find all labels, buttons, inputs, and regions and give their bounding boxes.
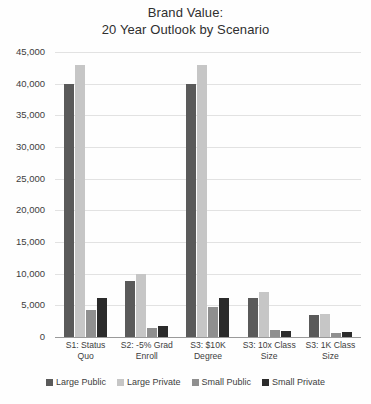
x-axis-label-line: S2: -5% Grad xyxy=(116,340,177,351)
y-axis-tick-label: 5,000 xyxy=(0,300,45,310)
y-axis-tick-label: 25,000 xyxy=(0,174,45,184)
bar xyxy=(259,292,269,337)
bar xyxy=(97,298,107,337)
y-axis-tick-label: 10,000 xyxy=(0,269,45,279)
bar xyxy=(86,310,96,337)
legend-swatch-icon xyxy=(192,379,199,386)
legend-item[interactable]: Small Public xyxy=(192,377,252,387)
bar xyxy=(331,333,341,337)
plot-area: 05,00010,00015,00020,00025,00030,00035,0… xyxy=(55,52,361,337)
x-axis-label: S2: -5% GradEnroll xyxy=(116,340,177,362)
legend-item[interactable]: Small Private xyxy=(262,377,325,387)
x-axis-label: S3: $10KDegree xyxy=(177,340,238,362)
x-axis-label-line: Degree xyxy=(177,351,238,362)
chart-title: Brand Value: 20 Year Outlook by Scenario xyxy=(0,4,371,38)
x-axis-label-line: Quo xyxy=(55,351,116,362)
bar xyxy=(197,65,207,337)
chart-title-line-1: Brand Value: xyxy=(0,4,371,21)
legend-swatch-icon xyxy=(46,379,53,386)
y-axis-tick-label: 20,000 xyxy=(0,205,45,215)
legend-item[interactable]: Large Private xyxy=(117,377,181,387)
bar xyxy=(136,274,146,337)
bar xyxy=(342,332,352,337)
bar xyxy=(147,328,157,337)
bar xyxy=(75,65,85,337)
legend-label: Small Public xyxy=(202,377,252,387)
chart-title-line-2: 20 Year Outlook by Scenario xyxy=(0,21,371,38)
chart-container: Brand Value: 20 Year Outlook by Scenario… xyxy=(0,0,371,404)
x-axis-label: S3: 10x ClassSize xyxy=(239,340,300,362)
x-axis-label-line: S3: 1K Class xyxy=(300,340,361,351)
bar-group xyxy=(116,52,177,337)
y-axis-tick-label: 30,000 xyxy=(0,142,45,152)
y-axis-tick-label: 35,000 xyxy=(0,110,45,120)
legend-swatch-icon xyxy=(262,379,269,386)
x-axis-label-line: S1: Status xyxy=(55,340,116,351)
legend-swatch-icon xyxy=(117,379,124,386)
x-axis-label-line: Size xyxy=(300,351,361,362)
x-axis-label-line: Size xyxy=(239,351,300,362)
bar xyxy=(158,326,168,337)
y-axis-tick-label: 0 xyxy=(0,332,45,342)
bar xyxy=(208,307,218,337)
y-axis-tick-label: 40,000 xyxy=(0,79,45,89)
chart-legend: Large PublicLarge PrivateSmall PublicSma… xyxy=(0,377,371,387)
legend-label: Large Private xyxy=(127,377,181,387)
axis-baseline xyxy=(55,337,361,338)
x-axis-labels: S1: StatusQuoS2: -5% GradEnrollS3: $10KD… xyxy=(55,340,361,372)
bar-group xyxy=(239,52,300,337)
bar xyxy=(320,314,330,337)
x-axis-label: S1: StatusQuo xyxy=(55,340,116,362)
x-axis-label-line: S3: 10x Class xyxy=(239,340,300,351)
legend-item[interactable]: Large Public xyxy=(46,377,106,387)
bar xyxy=(281,331,291,337)
bar xyxy=(248,298,258,337)
bar xyxy=(270,330,280,337)
legend-label: Small Private xyxy=(272,377,325,387)
bar xyxy=(219,298,229,337)
x-axis-label-line: S3: $10K xyxy=(177,340,238,351)
legend-label: Large Public xyxy=(56,377,106,387)
bar-group xyxy=(177,52,238,337)
bar-group xyxy=(300,52,361,337)
bar xyxy=(309,315,319,337)
bar-group xyxy=(55,52,116,337)
y-axis-tick-label: 15,000 xyxy=(0,237,45,247)
bar xyxy=(64,84,74,337)
bar xyxy=(125,281,135,337)
bar xyxy=(186,84,196,337)
y-axis-tick-label: 45,000 xyxy=(0,47,45,57)
x-axis-label-line: Enroll xyxy=(116,351,177,362)
x-axis-label: S3: 1K ClassSize xyxy=(300,340,361,362)
